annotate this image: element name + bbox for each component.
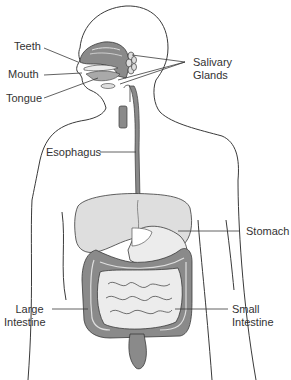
label-salivary-glands: Salivary Glands	[193, 56, 232, 82]
label-salivary-line1: Salivary	[193, 56, 232, 69]
label-mouth: Mouth	[8, 68, 39, 81]
label-small-intestine: Small Intestine	[232, 303, 274, 329]
label-small-line1: Small	[232, 303, 274, 316]
label-large-intestine: Large Intestine	[4, 303, 46, 329]
label-stomach: Stomach	[246, 225, 289, 238]
label-esophagus: Esophagus	[46, 146, 101, 159]
label-small-line2: Intestine	[232, 316, 274, 329]
label-salivary-line2: Glands	[193, 69, 232, 82]
label-tongue: Tongue	[6, 92, 42, 105]
esophagus	[119, 85, 140, 200]
label-teeth: Teeth	[14, 40, 41, 53]
label-large-line2: Intestine	[4, 316, 46, 329]
mouth-cavity	[80, 42, 129, 89]
label-large-line1: Large	[4, 303, 46, 316]
small-intestine	[97, 268, 182, 329]
